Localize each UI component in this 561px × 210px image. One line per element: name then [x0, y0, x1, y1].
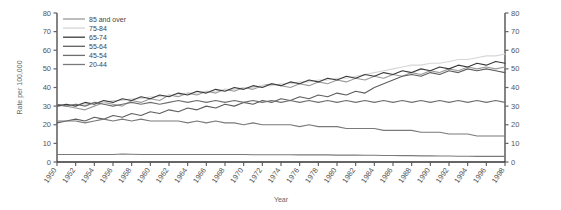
legend-label: 55-64 [89, 43, 107, 50]
x-tick-label: 1970 [228, 166, 245, 185]
y-tick-label-right: 0 [511, 158, 515, 167]
x-tick-label: 1978 [303, 166, 320, 185]
series-line [57, 119, 505, 136]
x-tick-label: 1956 [98, 166, 115, 185]
y-tick-label-right: 10 [511, 139, 519, 148]
y-tick-label-right: 60 [511, 46, 519, 55]
x-tick-label: 1980 [322, 166, 339, 185]
y-tick-label-left: 50 [43, 64, 51, 73]
y-tick-label-left: 60 [43, 46, 51, 55]
y-tick-label-right: 80 [511, 9, 519, 18]
x-tick-label: 1984 [359, 166, 376, 185]
x-tick-label: 1974 [266, 166, 283, 185]
x-tick-label: 1960 [135, 166, 152, 185]
x-tick-label: 1996 [471, 166, 488, 185]
x-tick-label: 1992 [434, 166, 451, 185]
x-tick-label: 1976 [284, 166, 301, 185]
legend-label: 65-74 [89, 34, 107, 41]
y-axis-title: Rate per 100,000 [16, 60, 24, 114]
x-tick-label: 1958 [116, 166, 133, 185]
y-tick-label-left: 40 [43, 83, 51, 92]
y-tick-label-right: 70 [511, 27, 519, 36]
x-tick-label: 1962 [154, 166, 171, 185]
y-tick-label-left: 30 [43, 102, 51, 111]
legend: 85 and over75-8465-7455-6445-5420-44 [63, 16, 127, 69]
line-chart: 0010102020303040405050606070708080195019… [0, 0, 561, 210]
y-tick-label-left: 10 [43, 139, 51, 148]
y-tick-label-right: 40 [511, 83, 519, 92]
x-tick-label: 1950 [42, 166, 59, 185]
x-tick-label: 1968 [210, 166, 227, 185]
x-tick-label: 1998 [490, 166, 507, 185]
legend-label: 45-54 [89, 52, 107, 59]
x-tick-label: 1966 [191, 166, 208, 185]
y-tick-label-right: 30 [511, 102, 519, 111]
x-tick-label: 1986 [378, 166, 395, 185]
x-tick-label: 1964 [172, 166, 189, 185]
x-tick-label: 1954 [79, 166, 96, 185]
series-line [57, 154, 505, 156]
legend-label: 75-84 [89, 25, 107, 32]
y-tick-label-left: 0 [47, 158, 51, 167]
y-tick-label-left: 80 [43, 9, 51, 18]
y-tick-label-right: 50 [511, 64, 519, 73]
x-tick-label: 1988 [396, 166, 413, 185]
chart-container: 0010102020303040405050606070708080195019… [0, 0, 561, 210]
x-axis-title: Year [274, 196, 289, 203]
y-tick-label-right: 20 [511, 120, 519, 129]
legend-label: 85 and over [89, 16, 127, 23]
y-tick-label-left: 70 [43, 27, 51, 36]
x-tick-label: 1990 [415, 166, 432, 185]
y-tick-label-left: 20 [43, 120, 51, 129]
x-tick-label: 1994 [452, 166, 469, 185]
series-line [57, 69, 505, 123]
x-tick-label: 1982 [340, 166, 357, 185]
x-tick-label: 1952 [60, 166, 77, 185]
x-tick-label: 1972 [247, 166, 264, 185]
legend-label: 20-44 [89, 61, 107, 68]
